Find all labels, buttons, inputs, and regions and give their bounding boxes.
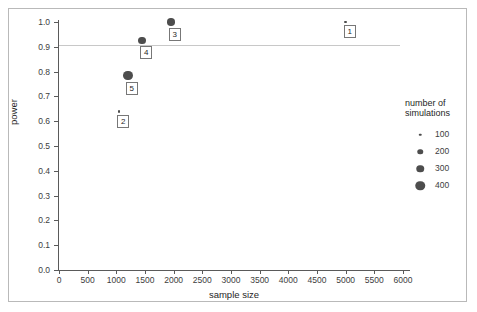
legend-marker [419, 133, 422, 136]
data-point-label: 2 [117, 115, 129, 128]
y-tick-label: 0.5 [24, 142, 50, 151]
legend-label: 100 [435, 130, 449, 139]
legend-swatch-wrap [413, 160, 427, 177]
data-point-label: 5 [126, 82, 138, 95]
y-tick-label: 1.0 [24, 18, 50, 27]
x-tick-mark [374, 270, 375, 274]
x-tick-mark [231, 270, 232, 274]
x-tick-mark [116, 270, 117, 274]
x-tick-mark [88, 270, 89, 274]
x-tick-mark [403, 270, 404, 274]
y-tick-mark [54, 72, 58, 73]
x-tick-mark [346, 270, 347, 274]
x-axis-line [58, 270, 410, 271]
y-tick-label: 0.4 [24, 167, 50, 176]
x-axis-title: sample size [58, 289, 410, 300]
y-tick-mark [54, 146, 58, 147]
x-tick-mark [145, 270, 146, 274]
y-tick-mark [54, 171, 58, 172]
x-tick-mark [260, 270, 261, 274]
legend-items: 100200300400 [405, 126, 473, 194]
y-axis-title: power [8, 99, 19, 125]
scatter-plot: 0.00.10.20.30.40.50.60.70.80.91.0 050010… [0, 0, 477, 312]
size-legend: number of simulations 100200300400 [405, 98, 473, 194]
legend-row: 300 [405, 160, 473, 177]
y-tick-label: 0.3 [24, 192, 50, 201]
legend-label: 400 [435, 181, 449, 190]
legend-row: 200 [405, 143, 473, 160]
legend-title-line1: number of [405, 98, 473, 108]
y-tick-label: 0.8 [24, 68, 50, 77]
y-tick-mark [54, 121, 58, 122]
reference-line-0.9 [59, 45, 400, 46]
x-tick-label: 6000 [383, 276, 423, 285]
legend-label: 300 [435, 164, 449, 173]
y-tick-mark [54, 96, 58, 97]
x-tick-mark [317, 270, 318, 274]
data-point[interactable] [344, 21, 347, 24]
data-point[interactable] [167, 18, 175, 26]
y-tick-label: 0.2 [24, 216, 50, 225]
y-axis-line [58, 20, 59, 270]
legend-swatch-wrap [413, 126, 427, 143]
legend-label: 200 [435, 147, 449, 156]
y-tick-label: 0.1 [24, 241, 50, 250]
legend-swatch-wrap [413, 177, 427, 194]
data-point[interactable] [123, 71, 133, 81]
y-tick-mark [54, 22, 58, 23]
data-point[interactable] [138, 37, 146, 45]
legend-marker [415, 181, 425, 191]
screenshot-root: 0.00.10.20.30.40.50.60.70.80.91.0 050010… [0, 0, 477, 312]
y-tick-label: 0.9 [24, 43, 50, 52]
y-tick-mark [54, 245, 58, 246]
y-tick-label: 0.7 [24, 92, 50, 101]
data-point[interactable] [118, 110, 121, 113]
data-point-label: 3 [169, 28, 181, 41]
x-tick-mark [59, 270, 60, 274]
data-point-label: 1 [344, 25, 356, 38]
legend-marker [417, 149, 423, 155]
y-tick-mark [54, 47, 58, 48]
legend-marker [416, 165, 424, 173]
y-tick-mark [54, 196, 58, 197]
y-tick-label: 0.0 [24, 266, 50, 275]
legend-swatch-wrap [413, 143, 427, 160]
data-point-label: 4 [140, 46, 152, 59]
x-tick-mark [202, 270, 203, 274]
x-tick-mark [174, 270, 175, 274]
legend-row: 400 [405, 177, 473, 194]
y-tick-label: 0.6 [24, 117, 50, 126]
x-tick-mark [288, 270, 289, 274]
y-tick-mark [54, 270, 58, 271]
y-tick-mark [54, 220, 58, 221]
legend-row: 100 [405, 126, 473, 143]
legend-title-line2: simulations [405, 108, 473, 118]
